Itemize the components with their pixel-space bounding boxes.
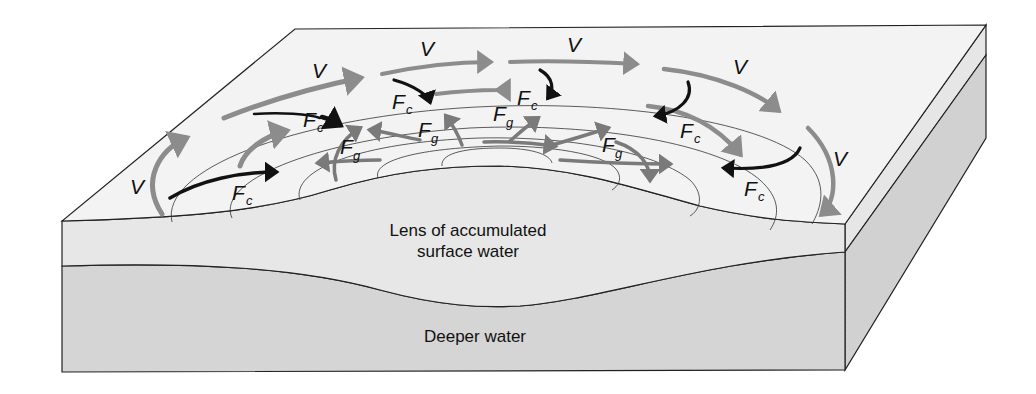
svg-text:F: F	[392, 90, 406, 113]
svg-text:c: c	[406, 102, 413, 117]
svg-text:F: F	[744, 177, 758, 200]
deep-water-label: Deeper water	[424, 327, 526, 346]
svg-text:c: c	[246, 193, 253, 208]
surface-lens-label: Lens of accumulated	[390, 221, 547, 240]
label-v: V	[833, 147, 849, 170]
svg-text:F: F	[517, 86, 531, 109]
label-v: V	[567, 33, 583, 56]
label-v: V	[420, 37, 436, 60]
svg-text:c: c	[317, 120, 324, 135]
surface-lens-label-line2: surface water	[417, 242, 519, 261]
svg-text:g: g	[506, 115, 514, 130]
label-v: V	[733, 55, 749, 78]
svg-text:F: F	[303, 108, 317, 131]
svg-text:g: g	[353, 148, 361, 163]
svg-text:F: F	[493, 102, 507, 125]
svg-text:F: F	[232, 181, 246, 204]
label-v: V	[130, 175, 146, 198]
svg-text:F: F	[418, 118, 432, 141]
svg-text:F: F	[340, 135, 354, 158]
svg-text:c: c	[694, 131, 701, 146]
geostrophic-flow-diagram: V V V V V V Fc Fc Fc Fc Fc Fc Fg Fg Fg F…	[0, 0, 1036, 394]
svg-text:F: F	[602, 133, 616, 156]
svg-text:c: c	[531, 98, 538, 113]
svg-text:g: g	[431, 131, 439, 146]
svg-text:c: c	[758, 189, 765, 204]
svg-text:F: F	[680, 119, 694, 142]
label-v: V	[312, 59, 328, 82]
svg-text:g: g	[615, 146, 623, 161]
